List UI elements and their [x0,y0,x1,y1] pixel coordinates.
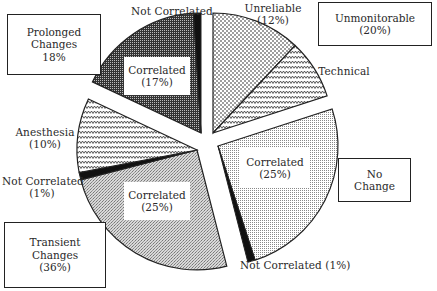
box-line-2: Change [354,180,395,193]
box-line-1: Unmonitorable [335,12,415,25]
label-pct: (1%) [2,187,82,199]
box-line-1: Transient [30,236,81,249]
label-text: Not Correlated [2,175,82,187]
box-line-2: Changes [31,38,77,51]
label-anesthesia: Anesthesia (10%) [10,126,80,150]
label-text: Correlated [128,189,185,202]
label-technical: Technical [314,65,374,77]
box-pct: (20%) [359,24,391,37]
label-text: Anesthesia [10,126,80,138]
box-pct: (36%) [39,261,71,274]
box-line-2: Changes [32,249,78,262]
label-correlated-25-right: Correlated (25%) [240,148,310,188]
label-pct: (12%) [238,14,308,26]
box-line-1: Prolonged [27,26,82,39]
box-unmonitorable: Unmonitorable (20%) [318,2,432,46]
box-prolonged-changes: Prolonged Changes 18% [7,14,101,75]
label-not-correlated-left: Not Correlated (1%) [2,175,82,199]
label-pct: (25%) [259,168,291,181]
label-text: Correlated [246,156,303,169]
box-no-change: No Change [338,158,411,202]
label-pct: (17%) [141,76,173,89]
box-line-1: No [367,168,383,181]
box-pct: 18% [42,51,65,64]
label-correlated-25-left: Correlated (25%) [124,182,190,220]
label-correlated-17: Correlated (17%) [124,57,190,95]
group-unmonitorable [213,13,327,133]
label-unreliable: Unreliable (12%) [238,2,308,26]
label-not-correlated-bottom: Not Correlated (1%) [240,259,350,271]
label-pct: (25%) [141,201,173,214]
box-transient-changes: Transient Changes (36%) [4,222,106,288]
label-not-correlated-top: Not Correlated [122,5,222,17]
label-pct: (10%) [10,138,80,150]
label-text: Correlated [128,64,185,77]
label-text: Unreliable [238,2,308,14]
